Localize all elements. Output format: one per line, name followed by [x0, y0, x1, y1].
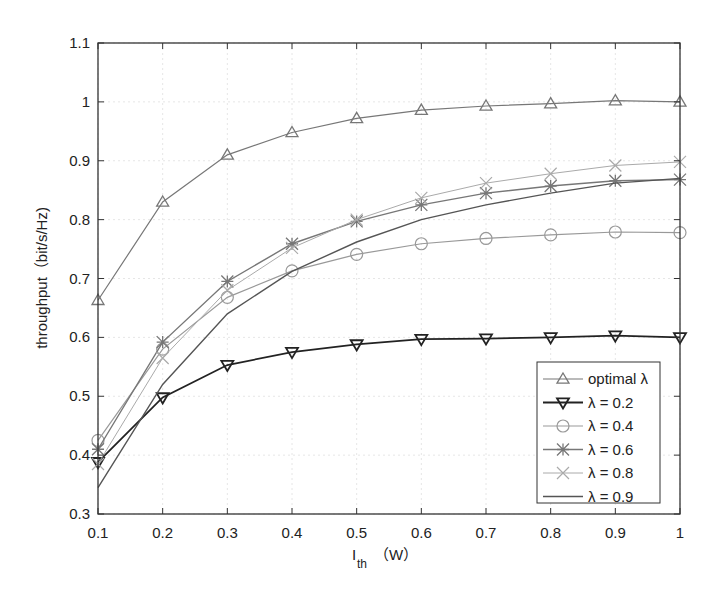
x-axis-label: I th （W） — [352, 546, 418, 571]
y-tick-label: 1.1 — [69, 34, 90, 51]
x-tick-label: 0.1 — [88, 524, 109, 541]
y-tick-label: 0.9 — [69, 152, 90, 169]
x-tick-label: 0.7 — [476, 524, 497, 541]
x-tick-label: 0.9 — [605, 524, 626, 541]
x-tick-label: 0.5 — [346, 524, 367, 541]
line-chart: 0.10.20.30.40.50.60.70.80.91 0.30.40.50.… — [0, 0, 724, 604]
x-tick-label: 0.3 — [217, 524, 238, 541]
legend-label: λ = 0.8 — [588, 464, 633, 481]
legend-label: optimal λ — [588, 370, 649, 387]
y-tick-label: 0.5 — [69, 387, 90, 404]
svg-text:I: I — [352, 546, 356, 563]
y-tick-labels: 0.30.40.50.60.70.80.911.1 — [69, 34, 90, 522]
y-tick-label: 0.4 — [69, 446, 90, 463]
y-axis-label: throughput（bit/s/Hz) — [33, 207, 50, 349]
legend-label: λ = 0.6 — [588, 441, 633, 458]
y-tick-label: 1 — [82, 93, 90, 110]
y-tick-label: 0.7 — [69, 270, 90, 287]
x-tick-label: 0.2 — [152, 524, 173, 541]
x-tick-labels: 0.10.20.30.40.50.60.70.80.91 — [88, 524, 685, 541]
svg-text:th: th — [357, 557, 367, 571]
y-tick-label: 0.3 — [69, 505, 90, 522]
x-tick-label: 0.4 — [282, 524, 303, 541]
x-tick-label: 0.6 — [411, 524, 432, 541]
y-tick-label: 0.8 — [69, 211, 90, 228]
legend-label: λ = 0.4 — [588, 417, 633, 434]
series-0 — [92, 95, 686, 305]
legend: optimal λλ = 0.2λ = 0.4λ = 0.6λ = 0.8λ =… — [537, 362, 660, 505]
legend-label: λ = 0.9 — [588, 488, 633, 505]
x-tick-label: 0.8 — [540, 524, 561, 541]
y-tick-label: 0.6 — [69, 328, 90, 345]
x-tick-label: 1 — [676, 524, 684, 541]
legend-label: λ = 0.2 — [588, 394, 633, 411]
svg-text:（W）: （W） — [374, 546, 418, 563]
